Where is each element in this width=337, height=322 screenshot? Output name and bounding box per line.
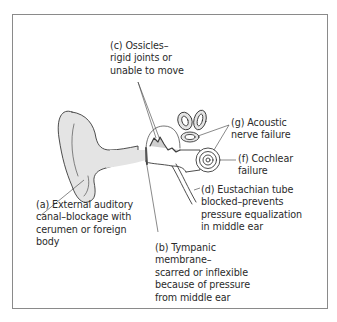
leader-c [138,82,156,138]
leader-b [146,160,158,232]
label-eustachian-tube: (d) Eustachian tube blocked–prevents pre… [201,184,302,234]
label-acoustic-nerve: (g) Acoustic nerve failure [231,117,291,142]
cochlea [196,148,220,172]
ossicles [150,137,180,152]
label-tympanic-membrane: (b) Tympanic membrane– scarred or inflex… [155,242,250,304]
label-ossicles: (c) Ossicles– rigid joints or unable to … [110,40,184,77]
label-external-canal: (a) External auditory canal–blockage wit… [36,199,133,249]
label-cochlear: (f) Cochlear failure [238,153,293,178]
leader-d [194,188,200,190]
